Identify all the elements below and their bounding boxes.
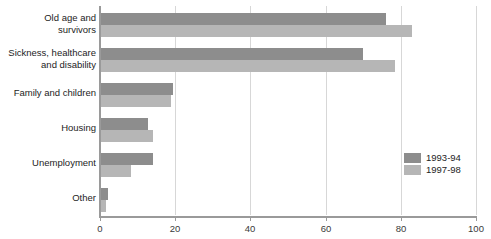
bar-series1 — [100, 188, 108, 200]
gridline — [401, 6, 402, 215]
gridline — [326, 6, 327, 215]
category-label: Unemployment — [0, 157, 96, 169]
bar-series2 — [100, 25, 412, 37]
bar-series1 — [100, 13, 386, 25]
gridline — [175, 6, 176, 215]
bar-series1 — [100, 48, 363, 60]
bar-series1 — [100, 153, 153, 165]
x-tick-label: 20 — [170, 223, 181, 234]
legend-label: 1997-98 — [426, 164, 461, 175]
chart-legend: 1993-94 1997-98 — [404, 152, 461, 176]
bar-series1 — [100, 118, 148, 130]
x-tick-mark — [250, 217, 251, 221]
legend-swatch-icon — [404, 153, 421, 163]
x-tick-label: 80 — [396, 223, 407, 234]
bar-series2 — [100, 95, 171, 107]
x-tick-label: 100 — [468, 223, 484, 234]
x-tick-mark — [476, 217, 477, 221]
category-label: Sickness, healthcare and disability — [0, 47, 96, 70]
category-label: Housing — [0, 122, 96, 134]
gridline — [476, 6, 477, 215]
bar-chart: Old age and survivors Sickness, healthca… — [0, 0, 491, 239]
legend-item: 1993-94 — [404, 152, 461, 163]
x-tick-label: 40 — [245, 223, 256, 234]
x-axis-line — [99, 216, 477, 218]
legend-swatch-icon — [404, 165, 421, 175]
bar-series2 — [100, 200, 106, 212]
bar-series2 — [100, 60, 395, 72]
gridline — [250, 6, 251, 215]
x-tick-mark — [100, 217, 101, 221]
category-label: Family and children — [0, 87, 96, 99]
legend-label: 1993-94 — [426, 152, 461, 163]
x-tick-mark — [401, 217, 402, 221]
x-tick-mark — [326, 217, 327, 221]
plot-area — [100, 6, 476, 215]
x-tick-label: 0 — [97, 223, 102, 234]
category-axis-labels: Old age and survivors Sickness, healthca… — [0, 0, 96, 239]
category-label: Other — [0, 192, 96, 204]
y-axis-line — [99, 6, 101, 217]
x-tick-label: 60 — [321, 223, 332, 234]
bar-series2 — [100, 130, 153, 142]
legend-item: 1997-98 — [404, 164, 461, 175]
x-tick-mark — [175, 217, 176, 221]
bar-series2 — [100, 165, 131, 177]
bar-series1 — [100, 83, 173, 95]
category-label: Old age and survivors — [0, 12, 96, 35]
